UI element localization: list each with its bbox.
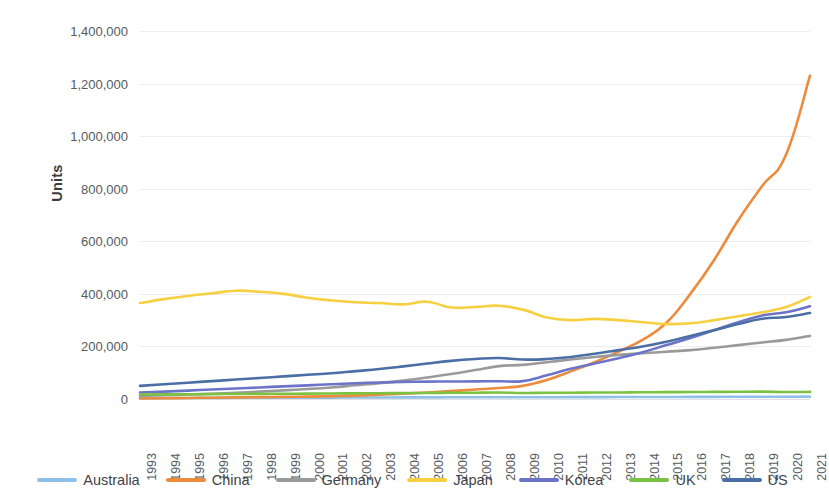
- legend-swatch-icon: [37, 478, 77, 482]
- y-tick-label: 800,000: [0, 181, 128, 196]
- y-tick-label: 1,400,000: [0, 24, 128, 39]
- y-tick-label: 1,200,000: [0, 76, 128, 91]
- legend-label: UK: [675, 472, 695, 488]
- legend-item-australia[interactable]: Australia: [37, 472, 139, 488]
- y-tick-label: 200,000: [0, 339, 128, 354]
- legend-item-uk[interactable]: UK: [629, 472, 695, 488]
- legend-swatch-icon: [722, 478, 762, 482]
- legend-label: US: [768, 472, 788, 488]
- y-tick-label: 600,000: [0, 234, 128, 249]
- plot-area: [140, 31, 810, 399]
- legend-label: Australia: [83, 472, 139, 488]
- legend-label: Germany: [322, 472, 382, 488]
- x-axis-tick-labels: 1993199419951996199719981999200020012002…: [140, 403, 810, 455]
- series-line-china: [140, 76, 810, 399]
- y-axis-tick-labels: 0200,000400,000600,000800,0001,000,0001,…: [0, 0, 128, 497]
- series-line-germany: [140, 336, 810, 396]
- legend-swatch-icon: [629, 478, 669, 482]
- legend-swatch-icon: [407, 478, 447, 482]
- legend-item-us[interactable]: US: [722, 472, 788, 488]
- series-line-japan: [140, 291, 810, 325]
- y-tick-label: 400,000: [0, 286, 128, 301]
- chart-legend: AustraliaChinaGermanyJapanKoreaUKUS: [0, 462, 825, 497]
- legend-swatch-icon: [166, 478, 206, 482]
- series-lines: [140, 31, 810, 399]
- y-tick-label: 0: [0, 392, 128, 407]
- legend-item-japan[interactable]: Japan: [407, 472, 493, 488]
- legend-label: Japan: [453, 472, 493, 488]
- legend-item-korea[interactable]: Korea: [519, 472, 604, 488]
- legend-label: Korea: [565, 472, 604, 488]
- legend-swatch-icon: [519, 478, 559, 482]
- y-tick-label: 1,000,000: [0, 129, 128, 144]
- legend-swatch-icon: [276, 478, 316, 482]
- x-axis-line: [140, 399, 810, 400]
- legend-item-china[interactable]: China: [166, 472, 250, 488]
- legend-label: China: [212, 472, 250, 488]
- legend-item-germany[interactable]: Germany: [276, 472, 382, 488]
